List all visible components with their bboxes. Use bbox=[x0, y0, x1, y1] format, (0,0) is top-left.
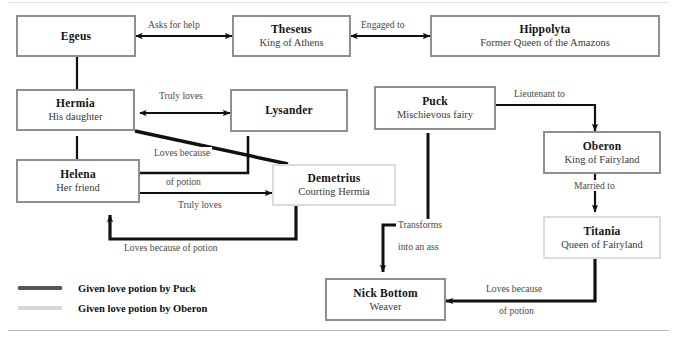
node-demetrius-role: Courting Hermia bbox=[298, 186, 369, 198]
node-lysander[interactable]: Lysander bbox=[230, 89, 348, 132]
legend-swatch-puck bbox=[18, 286, 62, 290]
node-titania-name: Titania bbox=[584, 225, 621, 238]
edge-label-of-potion-1: of potion bbox=[164, 176, 203, 187]
node-egeus[interactable]: Egeus bbox=[16, 15, 136, 57]
edge-label-loves-because-1: Loves because bbox=[152, 147, 212, 158]
node-helena-name: Helena bbox=[60, 168, 96, 181]
legend-swatch-oberon bbox=[18, 306, 62, 310]
node-puck-role: Mischievous fairy bbox=[397, 109, 473, 121]
edge-label-lieutenant-to: Lieutenant to bbox=[512, 88, 567, 99]
edge-label-engaged-to: Engaged to bbox=[359, 19, 406, 30]
edge-label-loves-because-of-potion: Loves because of potion bbox=[122, 242, 220, 253]
edge-titania-nickbottom bbox=[446, 259, 595, 301]
node-nick-bottom-name: Nick Bottom bbox=[353, 287, 417, 300]
node-hippolyta-role: Former Queen of the Amazons bbox=[480, 37, 609, 49]
edge-label-into-an-ass: into an ass bbox=[396, 241, 441, 252]
node-oberon-name: Oberon bbox=[583, 140, 622, 153]
node-demetrius-name: Demetrius bbox=[308, 172, 361, 185]
edge-label-of-potion-2: of potion bbox=[497, 305, 536, 316]
edge-label-transforms: Transforms bbox=[396, 219, 444, 230]
node-puck[interactable]: Puck Mischievous fairy bbox=[374, 86, 496, 130]
legend: Given love potion by Puck Given love pot… bbox=[18, 278, 207, 318]
node-hermia[interactable]: Hermia His daughter bbox=[16, 89, 135, 131]
node-titania[interactable]: Titania Queen of Fairyland bbox=[543, 216, 661, 259]
legend-item-puck: Given love potion by Puck bbox=[18, 278, 207, 298]
node-lysander-name: Lysander bbox=[265, 104, 313, 117]
legend-label-oberon: Given love potion by Oberon bbox=[78, 303, 207, 314]
diagram-canvas: Egeus Theseus King of Athens Hippolyta F… bbox=[0, 0, 677, 344]
node-helena[interactable]: Helena Her friend bbox=[16, 159, 140, 203]
node-theseus-name: Theseus bbox=[271, 23, 312, 36]
edge-label-truly-loves-helena: Truly loves bbox=[176, 199, 224, 210]
node-hermia-name: Hermia bbox=[56, 97, 95, 110]
node-hippolyta[interactable]: Hippolyta Former Queen of the Amazons bbox=[430, 15, 660, 57]
edge-demetrius-helena-potion bbox=[110, 206, 296, 239]
node-demetrius[interactable]: Demetrius Courting Hermia bbox=[272, 164, 396, 206]
node-nick-bottom-role: Weaver bbox=[370, 301, 402, 313]
node-hermia-role: His daughter bbox=[49, 111, 103, 123]
top-divider-rule bbox=[8, 2, 669, 3]
legend-item-oberon: Given love potion by Oberon bbox=[18, 298, 207, 318]
bottom-divider-rule bbox=[8, 330, 669, 331]
edge-label-loves-because-2: Loves because bbox=[484, 283, 544, 294]
node-helena-role: Her friend bbox=[56, 182, 99, 194]
edge-label-asks-for-help: Asks for help bbox=[146, 19, 202, 30]
node-oberon-role: King of Fairyland bbox=[564, 154, 639, 166]
node-theseus[interactable]: Theseus King of Athens bbox=[232, 15, 351, 57]
node-puck-name: Puck bbox=[422, 95, 448, 108]
edge-label-married-to: Married to bbox=[572, 180, 617, 191]
node-nick-bottom[interactable]: Nick Bottom Weaver bbox=[325, 278, 446, 321]
node-theseus-role: King of Athens bbox=[259, 37, 323, 49]
node-hippolyta-name: Hippolyta bbox=[519, 23, 570, 36]
node-oberon[interactable]: Oberon King of Fairyland bbox=[543, 131, 661, 174]
legend-label-puck: Given love potion by Puck bbox=[78, 283, 196, 294]
node-titania-role: Queen of Fairyland bbox=[561, 239, 643, 251]
node-egeus-name: Egeus bbox=[61, 30, 91, 43]
edge-label-truly-loves-hermia: Truly loves bbox=[157, 90, 205, 101]
edge-puck-oberon bbox=[496, 105, 595, 131]
